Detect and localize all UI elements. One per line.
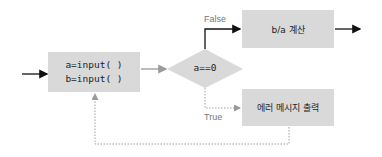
compute-label: b/a 계산 — [271, 23, 304, 36]
true-branch-arrow — [205, 88, 240, 108]
error-box: 에러 메시지 출력 — [242, 89, 334, 126]
condition-label: a==0 — [180, 62, 230, 73]
input-line-a: a=input( ) — [65, 58, 122, 72]
error-label: 에러 메시지 출력 — [257, 101, 319, 114]
input-box: a=input( ) b=input( ) — [48, 52, 140, 92]
false-label: False — [204, 14, 226, 24]
true-label: True — [204, 112, 222, 122]
false-branch-arrow — [205, 29, 240, 49]
flowchart-canvas: a=input( ) b=input( ) a==0 False b/a 계산 … — [0, 0, 382, 157]
compute-box: b/a 계산 — [242, 10, 334, 48]
input-line-b: b=input( ) — [65, 72, 122, 86]
